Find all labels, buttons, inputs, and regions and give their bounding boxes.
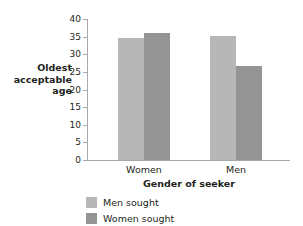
legend-swatch-icon — [86, 197, 97, 208]
x-category-label-women: Women — [126, 164, 162, 175]
bar-women-men-sought — [118, 38, 144, 160]
legend-label: Women sought — [103, 213, 174, 224]
x-axis-title: Gender of seeker — [88, 178, 290, 189]
legend-swatch-icon — [86, 213, 97, 224]
bar-men-men-sought — [210, 36, 236, 160]
x-category-label-men: Men — [226, 164, 246, 175]
y-axis-title-line-1: Oldest — [0, 62, 72, 74]
y-axis-title: Oldest acceptable age — [0, 62, 72, 97]
y-tick-label: 5 — [75, 138, 81, 147]
bar-chart-figure: Oldest acceptable age 0510152025303540 W… — [0, 0, 303, 226]
legend-label: Men sought — [103, 197, 159, 208]
y-tick-label: 30 — [70, 50, 81, 59]
y-tick-label: 20 — [70, 85, 81, 94]
y-tick-mark — [83, 54, 87, 55]
y-tick-mark — [83, 90, 87, 91]
y-tick-label: 25 — [70, 67, 81, 76]
bar-women-women-sought — [144, 33, 170, 160]
y-tick-mark — [83, 72, 87, 73]
y-axis-title-line-3: age — [0, 85, 72, 97]
bar-men-women-sought — [236, 66, 262, 160]
y-tick-mark — [83, 19, 87, 20]
y-tick-mark — [83, 160, 87, 161]
y-tick-label: 35 — [70, 32, 81, 41]
y-tick-label: 10 — [70, 120, 81, 129]
y-tick-mark — [83, 107, 87, 108]
chart-legend: Men soughtWomen sought — [86, 195, 174, 226]
y-axis-line — [87, 19, 88, 160]
y-tick-mark — [83, 142, 87, 143]
y-tick-label: 40 — [70, 15, 81, 24]
y-tick-mark — [83, 125, 87, 126]
x-axis-line — [87, 160, 290, 161]
y-tick-label: 15 — [70, 103, 81, 112]
y-axis-title-line-2: acceptable — [0, 74, 72, 86]
plot-area: 0510152025303540 WomenMen — [88, 19, 290, 160]
y-tick-label: 0 — [75, 156, 81, 165]
legend-item-men-sought[interactable]: Men sought — [86, 195, 174, 209]
legend-item-women-sought[interactable]: Women sought — [86, 211, 174, 225]
y-tick-mark — [83, 37, 87, 38]
